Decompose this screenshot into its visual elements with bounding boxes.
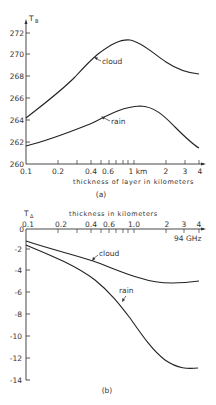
y-tick-label: 268 [10,72,25,81]
x-tick-label: 0.2 [52,167,64,176]
y-axis-label-b: T [23,209,29,218]
x-tick-label: 0.4 [85,220,97,229]
x-tick-label: 4 [198,167,203,176]
x-tick-label: 0.1 [20,167,32,176]
y-tick-label: -8 [15,310,23,319]
caption-a: (a) [96,190,107,199]
rain-label-b: rain [119,286,134,295]
x-tick-label: 3 [182,220,187,229]
rain-curve-a [26,106,199,148]
x-tick-label: 4 [197,220,202,229]
chart-figure: 272 270 268 266 264 262 260 T B 0.1 [0,0,216,405]
x-axis-arrow-icon [201,163,206,166]
y-tick-label: -12 [10,354,22,363]
y-axis-arrow-icon [25,19,28,24]
x-tick-label: 0.6 [103,220,115,229]
pointer-arrow-icon [122,298,125,302]
y-tick-label: 264 [10,116,25,125]
y-axis-label-sub-b: Δ [30,213,34,219]
y-tick-label: 262 [10,138,25,147]
x-tick-label: 3 [183,167,188,176]
y-tick-label: -4 [15,266,23,275]
x-tick-label: 0.6 [102,167,114,176]
caption-b: (b) [102,386,113,395]
x-tick-label: 1 km [129,167,148,176]
cloud-label-a: cloud [102,57,123,66]
cloud-curve-b [26,241,199,283]
x-tick-label: 2 [165,220,170,229]
cloud-curve-a [26,40,199,118]
frequency-label: 94 GHz [174,234,201,243]
y-tick-label: -14 [10,376,22,385]
y-tick-label: 266 [10,94,25,103]
panel-a: 272 270 268 266 264 262 260 T B 0.1 [10,14,206,199]
x-axis-label-a: thickness of layer in kilometers [73,178,194,186]
panel-b: thickness in kilometers T Δ 0.1 0.2 0. [10,209,206,395]
y-tick-label: -10 [10,332,22,341]
x-axis-arrow-icon [201,228,206,231]
y-axis-label-a: T [28,14,34,23]
y-tick-label: 0 [19,225,24,234]
rain-curve-b [26,245,198,368]
cloud-label-b: cloud [99,249,120,258]
y-tick-label: -6 [15,288,23,297]
rain-label-a: rain [111,117,126,126]
y-tick-label: -2 [15,245,23,254]
y-tick-label: 272 [10,29,25,38]
x-axis-label-b: thickness in kilometers [69,210,158,218]
x-tick-label: 0.2 [55,220,67,229]
y-axis-label-sub-a: B [35,18,39,24]
x-tick-label: 0.4 [85,167,97,176]
x-tick-label: 1.0 [128,220,140,229]
y-tick-label: 270 [10,50,25,59]
x-tick-label: 2 [164,167,169,176]
